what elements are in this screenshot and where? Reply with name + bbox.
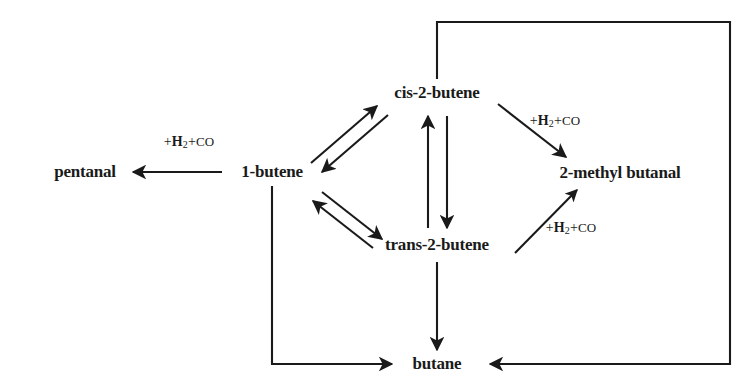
reagent-plus-1: + bbox=[546, 220, 554, 235]
reagent-carbon-monoxide: CO bbox=[562, 113, 580, 128]
arrow-cis-to-butane bbox=[437, 22, 730, 364]
node-cis-2-butene[interactable]: cis-2-butene bbox=[394, 83, 479, 103]
node-1-butene[interactable]: 1-butene bbox=[241, 162, 303, 182]
node-pentanal[interactable]: pentanal bbox=[54, 162, 116, 182]
reagent-carbon-monoxide: CO bbox=[578, 220, 596, 235]
reagent-label-cis-to-methylbutanal: +H2+CO bbox=[530, 113, 580, 129]
reagent-plus-1: + bbox=[530, 113, 538, 128]
reagent-label-trans-to-methylbutanal: +H2+CO bbox=[546, 220, 596, 236]
reagent-plus-1: + bbox=[164, 134, 172, 149]
reagent-plus-2: + bbox=[570, 220, 578, 235]
edge-layer bbox=[0, 0, 754, 388]
reagent-carbon-monoxide: CO bbox=[196, 134, 214, 149]
arrow-1butene-to-cis bbox=[311, 106, 377, 163]
reagent-label-pentanal: +H2+CO bbox=[164, 134, 214, 150]
node-trans-2-butene[interactable]: trans-2-butene bbox=[385, 235, 489, 255]
reagent-plus-2: + bbox=[188, 134, 196, 149]
node-butane[interactable]: butane bbox=[413, 354, 462, 374]
arrow-cis-to-1butene bbox=[322, 115, 388, 172]
reagent-hydrogen: H bbox=[554, 220, 565, 235]
arrow-cis-to-methylbutanal bbox=[498, 104, 566, 157]
reagent-plus-2: + bbox=[554, 113, 562, 128]
node-2-methyl-butanal[interactable]: 2-methyl butanal bbox=[559, 163, 680, 183]
reaction-scheme-diagram: pentanal 1-butene cis-2-butene trans-2-b… bbox=[0, 0, 754, 388]
reagent-hydrogen: H bbox=[172, 134, 183, 149]
reagent-hydrogen: H bbox=[538, 113, 549, 128]
arrow-1butene-to-butane bbox=[272, 186, 392, 364]
